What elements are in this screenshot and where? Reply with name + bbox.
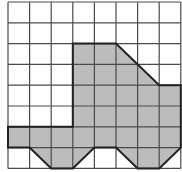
grid-diagram xyxy=(0,0,182,172)
